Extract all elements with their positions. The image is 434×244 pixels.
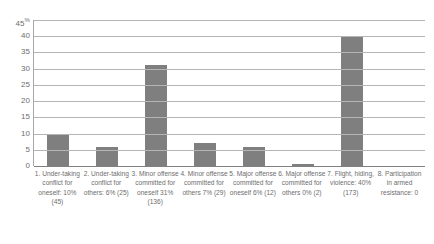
category-axis-labels: 1. Under-taking conflict for oneself: 10… [33,169,424,244]
bar[interactable] [145,65,167,166]
category-label: 6. Major offense committed for others 0%… [277,169,326,197]
y-axis: 45%4035302520151050 [0,14,30,166]
bar-slot [132,20,181,166]
y-axis-tick-label: 0 [0,162,30,170]
y-axis-tick-label: 25 [0,81,30,89]
gridline [34,69,425,70]
bar-slot [376,20,425,166]
bar-chart: 45%4035302520151050 1. Under-taking conf… [0,0,434,244]
gridline [34,150,425,151]
percent-symbol: % [25,17,30,23]
y-axis-tick-label: 45% [0,16,30,28]
bar-slot [34,20,83,166]
category-label: 3. Minor offense committed for oneself 3… [131,169,180,207]
y-axis-tick-label: 40 [0,32,30,40]
y-axis-tick-label: 10 [0,130,30,138]
bar-slot [83,20,132,166]
x-axis-line [34,166,425,167]
bar-slot [181,20,230,166]
category-label: 1. Under-taking conflict for oneself: 10… [33,169,82,207]
bar-slot [327,20,376,166]
gridline [34,101,425,102]
y-axis-tick-label: 15 [0,113,30,121]
bar-slot [230,20,279,166]
category-label: 8. Participation in armed resistance: 0 [375,169,424,197]
y-axis-tick-label: 30 [0,65,30,73]
category-label: 7. Flight, hiding, violence: 40% (173) [326,169,375,197]
category-label: 4. Minor offense committed for others 7%… [180,169,229,197]
y-axis-tick-label: 20 [0,97,30,105]
plot-area [33,20,424,166]
gridline [34,20,425,21]
gridline [34,134,425,135]
y-axis-tick-label: 5 [0,146,30,154]
gridline [34,117,425,118]
bar-slot [278,20,327,166]
y-axis-tick-label: 35 [0,48,30,56]
gridline [34,52,425,53]
bar-series [34,20,425,166]
category-label: 2. Under-taking conflict for others: 6% … [82,169,131,197]
gridline [34,85,425,86]
gridline [34,36,425,37]
bar[interactable] [194,143,216,166]
category-label: 5. Major offense committed for oneself 6… [229,169,278,197]
